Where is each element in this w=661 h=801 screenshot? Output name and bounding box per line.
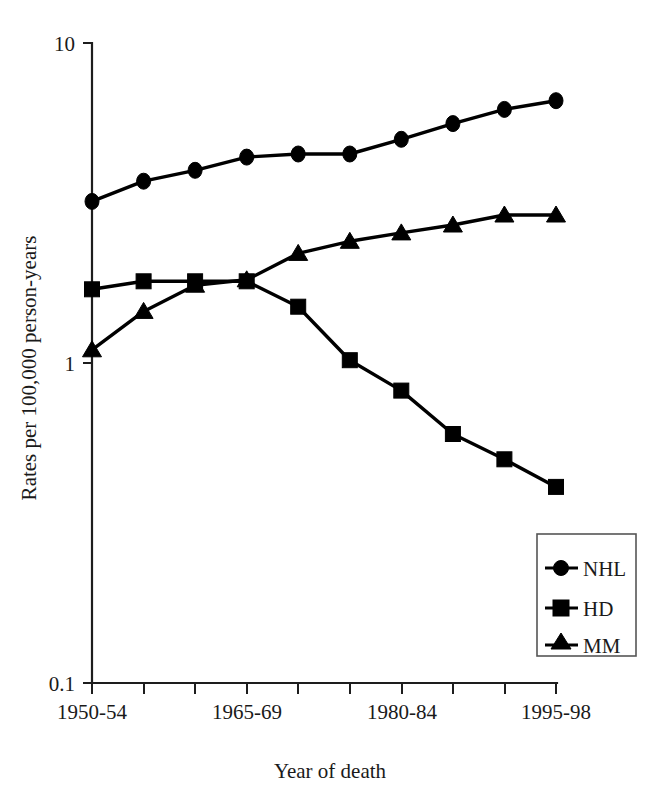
line-chart: 10 1 0.1 1950-54 1965-69 1980-84 1995-98… [0, 0, 661, 801]
y-axis-ticks [83, 43, 92, 683]
chart-container: 10 1 0.1 1950-54 1965-69 1980-84 1995-98… [0, 0, 661, 801]
series-line-nhl [92, 101, 556, 202]
x-tick-label-1980-84: 1980-84 [367, 700, 437, 724]
x-tick-label-1950-54: 1950-54 [57, 700, 127, 724]
data-point-square [497, 452, 512, 467]
legend-label-mm: MM [583, 634, 621, 658]
data-point-triangle [134, 302, 153, 318]
circle-icon [554, 561, 569, 576]
data-point-circle [291, 146, 305, 162]
x-tick-label-1965-69: 1965-69 [212, 700, 282, 724]
y-axis-title: Rates per 100,000 person-years [17, 236, 41, 501]
data-point-circle [446, 116, 460, 132]
y-tick-label-1: 1 [65, 352, 76, 376]
data-point-circle [240, 149, 254, 165]
data-point-square [85, 282, 100, 297]
data-point-circle [188, 162, 202, 178]
legend-label-hd: HD [583, 597, 613, 621]
data-point-square [136, 274, 151, 289]
data-point-square [291, 299, 306, 314]
series-nhl [85, 93, 563, 210]
legend-label-nhl: NHL [583, 557, 626, 581]
series-layer [83, 93, 566, 495]
data-point-circle [137, 173, 151, 189]
data-point-circle [394, 131, 408, 147]
legend: NHL HD MM [537, 534, 636, 658]
series-hd [85, 274, 564, 495]
y-tick-label-10: 10 [54, 32, 75, 56]
data-point-square [342, 353, 357, 368]
data-point-square [394, 383, 409, 398]
data-point-circle [497, 101, 511, 117]
data-point-circle [343, 146, 357, 162]
x-tick-label-1995-98: 1995-98 [521, 700, 591, 724]
square-icon [553, 600, 569, 616]
x-axis-title: Year of death [274, 759, 387, 783]
series-line-hd [92, 281, 556, 487]
y-tick-label-0-1: 0.1 [49, 672, 75, 696]
x-axis-ticks [92, 683, 556, 694]
data-point-square [445, 427, 460, 442]
data-point-circle [549, 93, 563, 109]
data-point-square [549, 479, 564, 494]
data-point-circle [85, 193, 99, 209]
